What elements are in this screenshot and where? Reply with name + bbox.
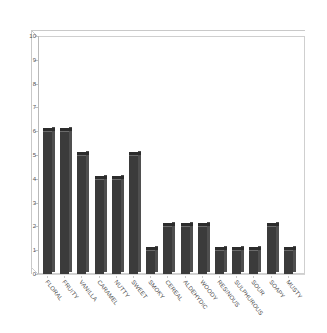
x-label-group: FRUITY xyxy=(59,276,75,333)
bar[interactable] xyxy=(43,131,52,274)
bar-highlight xyxy=(181,226,190,227)
bar-highlight xyxy=(129,155,138,156)
bar-group[interactable] xyxy=(162,36,178,274)
bar-highlight xyxy=(112,179,121,180)
y-tick-label: 9 xyxy=(10,56,36,63)
bar-highlight xyxy=(249,250,258,251)
bar[interactable] xyxy=(249,250,258,274)
bar-highlight xyxy=(77,155,86,156)
x-label-group: SMOKY xyxy=(145,276,161,333)
bar-side-face xyxy=(172,222,175,272)
bar[interactable] xyxy=(146,250,155,274)
x-tick-mark xyxy=(81,276,82,278)
x-label-group: MUSTY xyxy=(283,276,299,333)
bar-group[interactable] xyxy=(180,36,196,274)
y-tick-label: 5 xyxy=(10,152,36,159)
bar[interactable] xyxy=(181,226,190,274)
x-tick-mark xyxy=(64,276,65,278)
bar-group[interactable] xyxy=(266,36,282,274)
bar[interactable] xyxy=(232,250,241,274)
x-tick-mark xyxy=(167,276,168,278)
bar[interactable] xyxy=(77,155,86,274)
bar-group[interactable] xyxy=(145,36,161,274)
bar[interactable] xyxy=(284,250,293,274)
bar[interactable] xyxy=(95,179,104,274)
bar-side-face xyxy=(276,222,279,272)
x-label-group: FLORAL xyxy=(42,276,58,333)
x-label-group: ALDEHYDIC xyxy=(180,276,196,333)
bar-side-face xyxy=(190,222,193,272)
x-label-group: SOAPY xyxy=(266,276,282,333)
bar-highlight xyxy=(215,250,224,251)
bar-highlight xyxy=(284,250,293,251)
bar-group[interactable] xyxy=(248,36,264,274)
bar-side-face xyxy=(69,127,72,272)
chart-depth-corner-topleft xyxy=(31,30,38,37)
x-label-group: CEREAL xyxy=(162,276,178,333)
bars-container xyxy=(39,36,305,274)
bar-group[interactable] xyxy=(197,36,213,274)
bar-chart: 012345678910 FLORALFRUITYVANILLACARAMELN… xyxy=(0,0,327,333)
bar-highlight xyxy=(163,226,172,227)
y-tick-label: 2 xyxy=(10,223,36,230)
x-label-group: SOUR xyxy=(248,276,264,333)
x-label-group: SWEET xyxy=(128,276,144,333)
bar-side-face xyxy=(104,175,107,272)
x-axis: FLORALFRUITYVANILLACARAMELNUTTYSWEETSMOK… xyxy=(39,276,305,333)
bar[interactable] xyxy=(112,179,121,274)
x-label-group: CARAMEL xyxy=(94,276,110,333)
bar-group[interactable] xyxy=(283,36,299,274)
bar-side-face xyxy=(121,175,124,272)
y-tick-label: 3 xyxy=(10,199,36,206)
x-tick-mark xyxy=(116,276,117,278)
plot-floor xyxy=(38,274,305,275)
bar[interactable] xyxy=(129,155,138,274)
bar-highlight xyxy=(267,226,276,227)
x-tick-mark xyxy=(253,276,254,278)
x-tick-mark xyxy=(99,276,100,278)
y-tick-label: 1 xyxy=(10,247,36,254)
x-tick-mark xyxy=(150,276,151,278)
bar-group[interactable] xyxy=(76,36,92,274)
bar-group[interactable] xyxy=(94,36,110,274)
bar-group[interactable] xyxy=(59,36,75,274)
bar-group[interactable] xyxy=(214,36,230,274)
bar[interactable] xyxy=(60,131,69,274)
x-tick-label: MUSTY xyxy=(285,279,303,300)
bar-highlight xyxy=(146,250,155,251)
bar-side-face xyxy=(207,222,210,272)
y-tick-label: 4 xyxy=(10,175,36,182)
bar-group[interactable] xyxy=(42,36,58,274)
bar[interactable] xyxy=(163,226,172,274)
y-tick-label: 6 xyxy=(10,128,36,135)
bar-group[interactable] xyxy=(231,36,247,274)
bar-side-face xyxy=(138,151,141,272)
bar-highlight xyxy=(232,250,241,251)
x-tick-mark xyxy=(133,276,134,278)
bar-side-face xyxy=(86,151,89,272)
bar[interactable] xyxy=(267,226,276,274)
x-tick-mark xyxy=(271,276,272,278)
x-label-group: RESINOUS xyxy=(214,276,230,333)
x-tick-mark xyxy=(185,276,186,278)
bar-group[interactable] xyxy=(128,36,144,274)
bar[interactable] xyxy=(198,226,207,274)
bar-group[interactable] xyxy=(111,36,127,274)
y-tick-label: 0 xyxy=(10,271,36,278)
bar-highlight xyxy=(95,179,104,180)
x-label-group: NUTTY xyxy=(111,276,127,333)
y-tick-label: 10 xyxy=(10,33,36,40)
y-tick-label: 8 xyxy=(10,80,36,87)
x-tick-mark xyxy=(202,276,203,278)
x-label-group: WOODY xyxy=(197,276,213,333)
bar-highlight xyxy=(43,131,52,132)
bar-highlight xyxy=(60,131,69,132)
x-tick-mark xyxy=(288,276,289,278)
bar[interactable] xyxy=(215,250,224,274)
y-tick-label: 7 xyxy=(10,104,36,111)
x-tick-mark xyxy=(219,276,220,278)
x-tick-mark xyxy=(47,276,48,278)
x-tick-label: SOUR xyxy=(251,279,267,297)
bar-side-face xyxy=(52,127,55,272)
x-label-group: SULPHUROUS xyxy=(231,276,247,333)
